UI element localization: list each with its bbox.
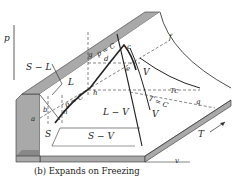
point-e: e [126, 66, 130, 73]
p-axis-label: p [4, 34, 10, 43]
point-b: b [43, 107, 47, 114]
region-l: L [68, 78, 74, 87]
pvt-surface-diagram [0, 0, 239, 182]
point-f: f [169, 34, 172, 41]
point-c: c [127, 44, 131, 51]
figure-caption: (b) Expands on Freezing [34, 166, 140, 176]
region-v-upper: V [143, 68, 150, 77]
point-n: n [63, 109, 68, 116]
v-axis-label: v [175, 158, 179, 165]
point-g: g [88, 52, 92, 59]
point-d: d [104, 56, 108, 63]
point-a: a [31, 116, 35, 123]
region-v-lower: V [152, 110, 159, 119]
region-s: S [45, 130, 51, 139]
critical-temp-label: Tc [170, 88, 178, 95]
region-s-v: S − V [88, 132, 114, 141]
region-l-v: L − V [103, 108, 129, 117]
point-h: h [93, 90, 98, 97]
region-s-l: S − L [26, 63, 51, 72]
t-axis-label: T [198, 130, 204, 139]
point-q: q [196, 99, 200, 106]
